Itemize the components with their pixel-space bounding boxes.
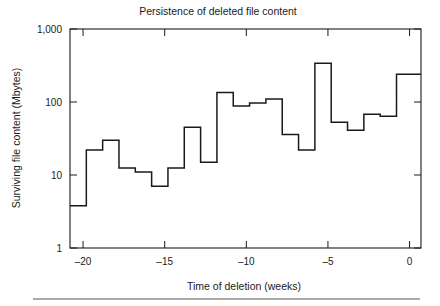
y-tick-label: 1,000: [37, 24, 62, 35]
chart-figure: Persistence of deleted file content Surv…: [0, 0, 440, 306]
x-tick-label: –20: [75, 256, 92, 267]
x-axis-label: Time of deletion (weeks): [187, 280, 301, 292]
y-axis-ticks: 1101001,000: [37, 24, 421, 254]
x-tick-label: –10: [238, 256, 255, 267]
series-path: [70, 63, 421, 205]
chart-canvas: Persistence of deleted file content Surv…: [0, 0, 440, 306]
x-axis-ticks: –20–15–10–50: [75, 29, 413, 267]
data-series-step-line: [70, 63, 421, 205]
x-tick-label: –15: [156, 256, 173, 267]
y-tick-label: 1: [56, 243, 62, 254]
x-tick-label: –5: [322, 256, 334, 267]
chart-title: Persistence of deleted file content: [139, 5, 297, 17]
x-tick-label: 0: [407, 256, 413, 267]
plot-frame: [70, 29, 421, 248]
y-tick-label: 100: [45, 97, 62, 108]
y-tick-label: 10: [51, 170, 63, 181]
y-axis-label: Surviving file content (Mbytes): [10, 68, 22, 209]
